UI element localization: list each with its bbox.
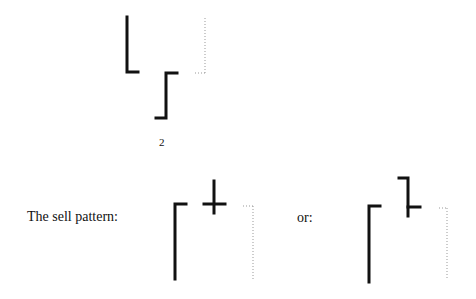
figure-number: 2 bbox=[159, 136, 165, 148]
sell-pattern-2-dotted bbox=[439, 208, 447, 280]
sell-pattern-1 bbox=[175, 181, 225, 279]
pattern-2-dotted bbox=[195, 18, 205, 73]
bar-1 bbox=[127, 17, 138, 72]
sell-pattern-label: The sell pattern: bbox=[27, 209, 118, 225]
pattern-2-figure bbox=[127, 17, 177, 118]
bar-left bbox=[175, 204, 186, 279]
bar-2 bbox=[156, 73, 177, 118]
bar-left bbox=[369, 206, 380, 282]
bar-upper bbox=[399, 178, 408, 216]
candlestick-diagram bbox=[0, 0, 476, 299]
or-label: or: bbox=[297, 210, 313, 226]
sell-pattern-2 bbox=[369, 178, 420, 282]
sell-pattern-1-dotted bbox=[243, 206, 253, 279]
